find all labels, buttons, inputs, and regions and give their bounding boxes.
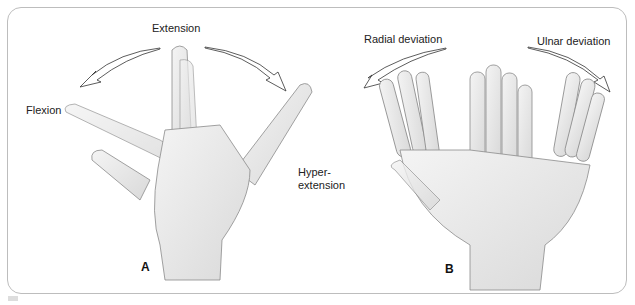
label-radial-deviation: Radial deviation <box>364 33 442 46</box>
panel-label-a: A <box>141 260 150 274</box>
corner-mark <box>8 296 18 301</box>
arrow-hyperextension-icon <box>205 47 286 91</box>
hand-b-icon <box>378 65 606 290</box>
label-hyperextension-2: extension <box>298 179 345 192</box>
label-extension: Extension <box>152 22 200 35</box>
panel-label-b: B <box>445 262 454 276</box>
label-hyperextension-1: Hyper- <box>298 166 331 179</box>
arrow-flexion-icon <box>80 48 160 87</box>
label-ulnar-deviation: Ulnar deviation <box>537 35 610 48</box>
label-flexion: Flexion <box>26 104 61 117</box>
